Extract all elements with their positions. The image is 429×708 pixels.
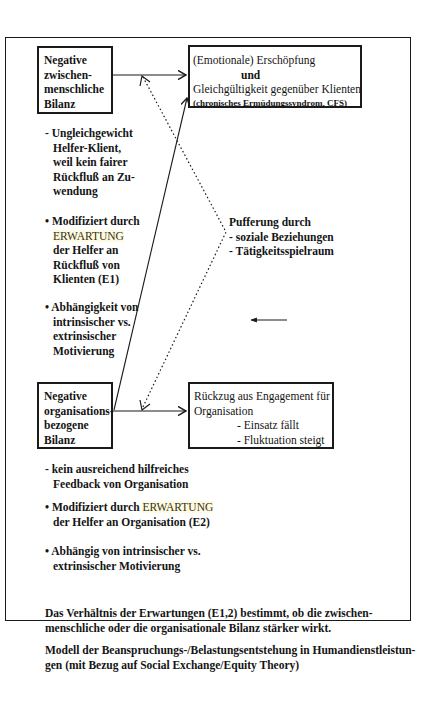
box-organizational-balance: Negative organisations- bezogene Bilanz	[37, 382, 113, 449]
box-line: Negative	[44, 389, 106, 404]
exhaustion-title: (Emotionale) Erschöpfung	[193, 53, 357, 68]
note-line: - kein ausreichend hilfreiches	[45, 462, 189, 477]
note-line: Rückfluß von	[45, 258, 140, 273]
note-line: wendung	[45, 184, 135, 199]
expectation-keyword: ERWARTUNG	[53, 230, 124, 242]
box-line: Bilanz	[44, 433, 106, 448]
note-line: - Ungleichgewicht	[45, 126, 135, 141]
note-line: Das Verhältnis der Erwartungen (E1,2) be…	[45, 606, 373, 621]
note-line: weil kein fairer	[45, 155, 135, 170]
withdrawal-turnover: - Fluktuation steigt	[194, 433, 328, 448]
note-line: Rückfluß an Zu-	[45, 170, 135, 185]
box-line: organisations-	[44, 404, 106, 419]
organizational-motivation-note: • Abhängig von intrinsischer vs. extrins…	[45, 544, 201, 573]
note-line: Klienten (E1)	[45, 272, 140, 287]
note-line: • Abhängig von intrinsischer vs.	[45, 544, 201, 559]
box-line: zwischen-	[44, 68, 106, 83]
interpersonal-imbalance-note: - Ungleichgewicht Helfer-Klient, weil ke…	[45, 126, 135, 199]
expectation-keyword: ERWARTUNG	[142, 501, 213, 513]
dotted-arrowhead-bottom	[140, 400, 150, 410]
buffering-item: - soziale Beziehungen	[229, 230, 334, 245]
buffer-dotted-arrows	[142, 77, 226, 409]
organizational-expectation-note: • Modifiziert durch ERWARTUNG der Helfer…	[45, 500, 213, 529]
note-line: menschliche oder die organisationale Bil…	[45, 621, 373, 636]
exhaustion-cfs: (chronisches Ermüdungssyndrom, CFS)	[193, 97, 357, 109]
note-line: extrinsischer Motivierung	[45, 559, 201, 574]
note-line: intrinsischer vs.	[45, 315, 139, 330]
interpersonal-expectation-note: • Modifiziert durch ERWARTUNG der Helfer…	[45, 214, 140, 287]
box-interpersonal-balance: Negative zwischen- menschliche Bilanz	[37, 46, 113, 114]
organizational-feedback-note: - kein ausreichend hilfreiches Feedback …	[45, 462, 189, 491]
buffering-note: Pufferung durch - soziale Beziehungen - …	[229, 215, 334, 259]
caption-line: Modell der Beanspruchungs-/Belastungsent…	[45, 643, 415, 658]
exhaustion-and: und	[193, 68, 357, 83]
withdrawal-effort: - Einsatz fällt	[194, 418, 328, 433]
box-line: Negative	[44, 53, 106, 68]
note-line: • Abhängigkeit von	[45, 300, 139, 315]
buffering-title: Pufferung durch	[229, 215, 334, 230]
exhaustion-indifference: Gleichgültigkeit gegenüber Klienten	[193, 82, 357, 97]
buffering-item: - Tätigkeitsspielraum	[229, 244, 334, 259]
box-withdrawal: Rückzug aus Engagement für Organisation …	[188, 382, 334, 449]
note-line: Helfer-Klient,	[45, 141, 135, 156]
box-line: menschliche	[44, 82, 106, 97]
expectation-ratio-note: Das Verhältnis der Erwartungen (E1,2) be…	[45, 606, 373, 635]
figure-caption: Modell der Beanspruchungs-/Belastungsent…	[45, 643, 415, 672]
withdrawal-title: Rückzug aus Engagement für	[194, 389, 328, 404]
box-line: Bilanz	[44, 97, 106, 112]
note-line: Feedback von Organisation	[45, 477, 189, 492]
interpersonal-motivation-note: • Abhängigkeit von intrinsischer vs. ext…	[45, 300, 139, 358]
caption-line: gen (mit Bezug auf Social Exchange/Equit…	[45, 658, 415, 673]
note-line: • Modifiziert durch	[45, 214, 140, 229]
note-line: Motivierung	[45, 344, 139, 359]
note-line: extrinsischer	[45, 329, 139, 344]
box-exhaustion: (Emotionale) Erschöpfung und Gleichgülti…	[188, 45, 362, 108]
note-line: der Helfer an Organisation (E2)	[45, 515, 213, 530]
note-prefix: • Modifiziert durch	[45, 501, 142, 513]
box-line: bezogene	[44, 418, 106, 433]
withdrawal-org: Organisation	[194, 404, 328, 419]
note-line: der Helfer an	[45, 243, 140, 258]
